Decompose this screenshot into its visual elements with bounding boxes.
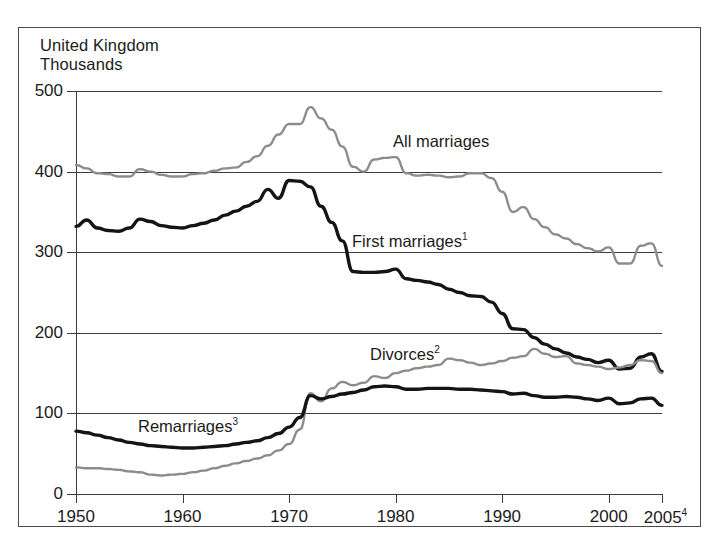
- x-axis-label-1960: 1960: [164, 507, 202, 527]
- y-axis-label-300: 300: [35, 242, 63, 262]
- footnote-marker-2: 2: [434, 344, 440, 355]
- x-tick-1960: [183, 494, 184, 503]
- footnote-marker-1: 1: [462, 231, 468, 242]
- y-axis-label-400: 400: [35, 162, 63, 182]
- x-tick-1970: [289, 494, 290, 503]
- series-label-remarriages: Remarriages3: [138, 416, 238, 436]
- y-axis-label-0: 0: [54, 484, 63, 504]
- y-axis-label-100: 100: [35, 403, 63, 423]
- series-label-divorces: Divorces2: [370, 344, 440, 364]
- series-label-first-marriages: First marriages1: [352, 231, 468, 251]
- y-tick-0: [67, 494, 76, 495]
- x-axis-label-2000: 2000: [590, 507, 628, 527]
- x-axis-label-1970: 1970: [270, 507, 308, 527]
- footnote-marker-4: 4: [682, 507, 688, 518]
- y-tick-300: [67, 252, 76, 253]
- y-tick-200: [67, 333, 76, 334]
- y-tick-500: [67, 91, 76, 92]
- footnote-marker-3: 3: [232, 416, 238, 427]
- x-tick-2005: [662, 494, 663, 503]
- x-tick-1950: [76, 494, 77, 503]
- units-label: Thousands: [40, 55, 159, 74]
- plot-area: 0100200300400500 19501960197019801990200…: [76, 91, 662, 494]
- x-tick-1980: [396, 494, 397, 503]
- x-tick-1990: [502, 494, 503, 503]
- x-axis-label-2005: 20054: [644, 507, 687, 528]
- series-line-divorces: [76, 349, 662, 476]
- figure-root: United Kingdom Thousands 010020030040050…: [0, 0, 718, 544]
- x-tick-2000: [609, 494, 610, 503]
- chart-frame: United Kingdom Thousands 010020030040050…: [18, 27, 701, 527]
- x-axis-label-1980: 1980: [377, 507, 415, 527]
- series-label-all-marriages: All marriages: [393, 132, 489, 151]
- x-axis-label-1990: 1990: [483, 507, 521, 527]
- y-axis-label-500: 500: [35, 81, 63, 101]
- region-title: United Kingdom: [40, 36, 159, 55]
- y-tick-100: [67, 413, 76, 414]
- chart-title-block: United Kingdom Thousands: [40, 36, 159, 75]
- y-axis-label-200: 200: [35, 323, 63, 343]
- x-axis-label-1950: 1950: [57, 507, 95, 527]
- gridline-0: [76, 494, 662, 495]
- series-line-first-marriages: [76, 180, 662, 371]
- y-tick-400: [67, 172, 76, 173]
